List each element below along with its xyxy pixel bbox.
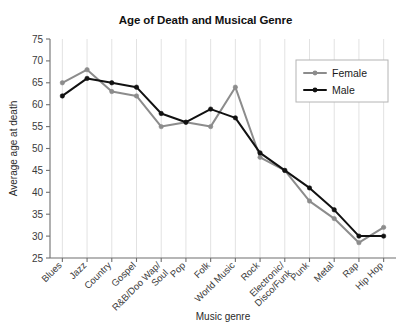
line-chart-plot: 7570656055504540353025 BluesJazzCountryG…: [0, 0, 411, 333]
svg-text:Hip Hop: Hip Hop: [353, 260, 385, 292]
data-point-female-3: [134, 94, 138, 98]
data-point-male-12: [357, 234, 361, 238]
chart-container: Age of Death and Musical Genre 757065605…: [0, 0, 411, 333]
data-point-female-2: [110, 89, 114, 93]
data-point-male-6: [208, 107, 212, 111]
x-tick-label: Folk: [192, 259, 213, 280]
legend-label-male: Male: [332, 84, 355, 96]
svg-text:Pop: Pop: [168, 260, 188, 280]
svg-text:Jazz: Jazz: [67, 259, 89, 281]
data-point-male-3: [134, 85, 138, 89]
legend-label-female: Female: [332, 67, 367, 79]
data-point-male-9: [283, 168, 287, 172]
data-point-female-1: [85, 67, 89, 71]
svg-text:Metal: Metal: [311, 260, 335, 284]
data-point-male-1: [85, 76, 89, 80]
x-tick-label: Rap: [340, 260, 360, 280]
y-tick-label: 50: [32, 143, 44, 154]
data-point-female-4: [159, 124, 163, 128]
y-tick-label: 40: [32, 187, 44, 198]
svg-text:Rap: Rap: [340, 260, 360, 280]
data-point-female-7: [233, 85, 237, 89]
data-point-male-2: [110, 81, 114, 85]
x-tick-label: Jazz: [67, 259, 89, 281]
x-tick-label: Hip Hop: [353, 260, 385, 292]
data-point-male-8: [258, 151, 262, 155]
y-axis: 7570656055504540353025: [32, 34, 50, 264]
y-tick-label: 60: [32, 99, 44, 110]
y-tick-label: 35: [32, 209, 44, 220]
y-tick-label: 70: [32, 55, 44, 66]
svg-text:Folk: Folk: [192, 259, 213, 280]
x-axis-title: Music genre: [196, 311, 251, 322]
x-tick-label: Punk: [288, 259, 311, 282]
y-tick-label: 75: [32, 34, 44, 45]
x-tick-label: Country: [82, 259, 113, 290]
data-point-male-5: [184, 120, 188, 124]
x-tick-label: Metal: [311, 260, 335, 284]
y-tick-label: 25: [32, 253, 44, 264]
data-point-female-10: [307, 199, 311, 203]
y-tick-label: 30: [32, 231, 44, 242]
data-point-female-6: [208, 124, 212, 128]
data-point-male-13: [381, 234, 385, 238]
y-axis-title: Average age at death: [8, 101, 19, 196]
data-point-female-8: [258, 155, 262, 159]
svg-text:Country: Country: [82, 259, 113, 290]
x-tick-label: Pop: [168, 260, 188, 280]
data-point-female-13: [381, 225, 385, 229]
svg-text:Punk: Punk: [288, 259, 311, 282]
legend-marker-male: [313, 88, 318, 93]
y-tick-label: 65: [32, 77, 44, 88]
data-point-male-10: [307, 186, 311, 190]
y-tick-label: 45: [32, 165, 44, 176]
data-point-male-11: [332, 208, 336, 212]
x-tick-label: R&B/Doo Wap/Soul: [110, 259, 171, 320]
data-point-female-11: [332, 216, 336, 220]
data-point-male-0: [60, 94, 64, 98]
chart-legend: FemaleMale: [296, 60, 388, 102]
legend-marker-female: [313, 71, 318, 76]
data-point-female-12: [357, 240, 361, 244]
y-tick-label: 55: [32, 121, 44, 132]
data-point-female-0: [60, 81, 64, 85]
data-point-male-7: [233, 116, 237, 120]
data-point-male-4: [159, 111, 163, 115]
